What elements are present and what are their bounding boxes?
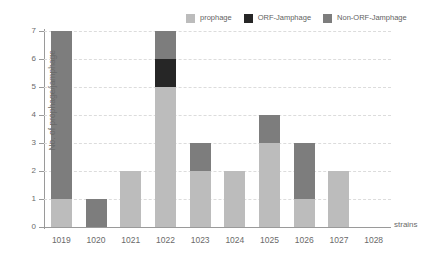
- bar-group[interactable]: [190, 143, 211, 227]
- bar-segment[interactable]: [155, 87, 176, 227]
- bar-segment[interactable]: [190, 171, 211, 227]
- bar-group[interactable]: [155, 31, 176, 227]
- x-axis-title: strains: [394, 221, 418, 229]
- bar-segment[interactable]: [259, 115, 280, 143]
- bar-group[interactable]: [86, 199, 107, 227]
- legend-item-non-orf-jamphage: Non-ORF-Jamphage: [323, 14, 407, 23]
- gridline: [44, 87, 391, 88]
- plot-inner: [44, 31, 391, 227]
- legend-swatch-prophage: [186, 14, 195, 23]
- legend-swatch-non-orf-jamphage: [323, 14, 332, 23]
- legend-label-prophage: prophage: [200, 14, 232, 22]
- legend-label-orf-jamphage: ORF-Jamphage: [258, 14, 311, 22]
- legend-swatch-orf-jamphage: [244, 14, 253, 23]
- gridline: [44, 59, 391, 60]
- bar-group[interactable]: [224, 171, 245, 227]
- bar-segment[interactable]: [120, 171, 141, 227]
- bar-segment[interactable]: [294, 199, 315, 227]
- gridline: [44, 31, 391, 32]
- x-tick-label: 1028: [354, 236, 394, 245]
- bar-group[interactable]: [120, 171, 141, 227]
- y-axis-title: No. of prophage/jamphage: [48, 30, 57, 170]
- bar-segment[interactable]: [155, 31, 176, 59]
- bar-segment[interactable]: [190, 143, 211, 171]
- bar-segment[interactable]: [155, 59, 176, 87]
- y-tick-label: 6: [18, 55, 36, 63]
- legend-item-prophage: prophage: [186, 14, 232, 23]
- bar-segment[interactable]: [51, 199, 72, 227]
- y-tick-label: 5: [18, 83, 36, 91]
- y-tick-mark: [39, 227, 44, 228]
- y-tick-label: 2: [18, 167, 36, 175]
- y-tick-label: 3: [18, 139, 36, 147]
- y-tick-label: 1: [18, 195, 36, 203]
- legend-label-non-orf-jamphage: Non-ORF-Jamphage: [337, 14, 407, 22]
- bar-chart: prophage ORF-Jamphage Non-ORF-Jamphage 0…: [0, 0, 430, 268]
- bar-segment[interactable]: [294, 143, 315, 199]
- y-tick-label: 0: [18, 223, 36, 231]
- bar-group[interactable]: [328, 171, 349, 227]
- plot-area: [44, 31, 391, 227]
- bar-group[interactable]: [294, 143, 315, 227]
- bar-segment[interactable]: [259, 143, 280, 227]
- gridline: [44, 115, 391, 116]
- bar-group[interactable]: [259, 115, 280, 227]
- gridline: [44, 143, 391, 144]
- chart-legend: prophage ORF-Jamphage Non-ORF-Jamphage: [186, 11, 430, 25]
- x-axis-line: [44, 227, 391, 228]
- bar-segment[interactable]: [328, 171, 349, 227]
- bar-segment[interactable]: [86, 199, 107, 227]
- legend-item-orf-jamphage: ORF-Jamphage: [244, 14, 311, 23]
- y-tick-label: 4: [18, 111, 36, 119]
- y-tick-label: 7: [18, 27, 36, 35]
- bar-segment[interactable]: [224, 171, 245, 227]
